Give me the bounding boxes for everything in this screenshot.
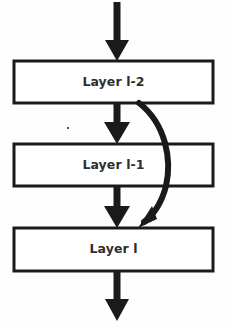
input-arrow bbox=[105, 2, 129, 61]
node-layer-l-1[interactable] bbox=[14, 144, 213, 186]
edge-l2-to-l1-head bbox=[104, 122, 130, 144]
edge-l1-to-l bbox=[104, 186, 130, 228]
scan-speck-artifact bbox=[67, 127, 69, 129]
flow-diagram-graphic bbox=[0, 0, 230, 328]
edge-l1-to-l-head bbox=[104, 206, 130, 228]
diagram-canvas: Layer l-2 Layer l-1 Layer l bbox=[0, 0, 230, 328]
edge-l2-to-l1 bbox=[104, 103, 130, 144]
output-arrow-head bbox=[105, 299, 129, 321]
node-layer-l-2[interactable] bbox=[14, 61, 213, 103]
node-layer-l[interactable] bbox=[14, 228, 213, 271]
input-arrow-head bbox=[105, 40, 129, 61]
output-arrow bbox=[105, 271, 129, 321]
